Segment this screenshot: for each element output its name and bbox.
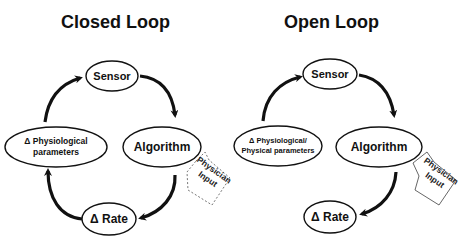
rate-label: Δ Rate	[311, 210, 349, 224]
arrow-params-to-sensor	[45, 78, 80, 122]
arrow-to-sensor	[263, 77, 300, 121]
arrow-algorithm-to-rate	[362, 172, 396, 214]
params-node: Δ Physiological/ Physical parameters	[234, 126, 322, 166]
panel-title-closed-loop: Closed Loop	[61, 12, 170, 33]
algorithm-label: Algorithm	[134, 140, 191, 154]
sensor-label: Sensor	[93, 70, 130, 82]
arrow-algorithm-to-rate	[141, 175, 175, 218]
arrow-sensor-to-algorithm	[359, 75, 394, 115]
params-label-line2: Physical parameters	[242, 146, 315, 156]
sensor-node: Sensor	[86, 62, 138, 90]
arrow-sensor-to-algorithm	[140, 76, 175, 115]
params-node: Δ Physiological parameters	[5, 127, 107, 167]
arrow-rate-to-params	[48, 171, 82, 219]
algorithm-node: Algorithm	[123, 127, 201, 167]
params-label-line1: Δ Physiological/	[249, 136, 307, 146]
sensor-label: Sensor	[311, 68, 348, 80]
diagram-canvas	[0, 0, 468, 247]
params-label-line1: Δ Physiological	[24, 136, 87, 147]
panel-title-open-loop: Open Loop	[284, 12, 379, 33]
algorithm-node: Algorithm	[336, 127, 422, 167]
rate-node: Δ Rate	[304, 201, 356, 233]
algorithm-label: Algorithm	[351, 140, 408, 154]
rate-node: Δ Rate	[82, 203, 136, 235]
params-label-line2: parameters	[33, 147, 79, 158]
sensor-node: Sensor	[303, 60, 357, 88]
rate-label: Δ Rate	[90, 212, 128, 226]
